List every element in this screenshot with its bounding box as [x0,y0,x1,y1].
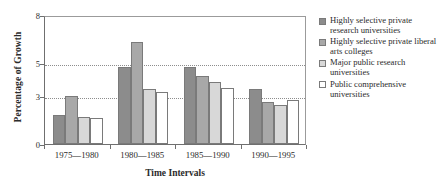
bar [90,118,103,144]
x-axis-tick-mark [44,145,45,149]
legend-swatch-icon [319,60,326,67]
x-axis-tick-mark [175,145,176,149]
bar-group [249,17,299,144]
x-axis-tick-mark [306,145,307,149]
legend-item: Major public research universities [319,57,439,77]
bar-group [184,17,234,144]
bar-group [118,17,168,144]
x-axis-tick-label: 1975—1980 [44,150,110,160]
y-axis-title: Percentage of Growth [13,12,23,142]
bar [274,105,287,145]
bar [287,100,300,144]
bar [53,115,66,144]
x-axis-tick-label: 1985—1990 [175,150,241,160]
bar [118,67,131,144]
legend-item-label: Public comprehensive universities [330,79,439,99]
legend-swatch-icon [319,81,326,88]
bar-series-container [45,17,305,144]
x-axis-tick-mark [241,145,242,149]
y-axis-tick-label: 8 [24,12,40,21]
y-axis-tick-label: 0 [24,141,40,150]
bar [209,82,222,144]
bar [78,117,91,144]
bar [196,76,209,144]
bar [184,67,197,144]
legend-item: Public comprehensive universities [319,79,439,99]
x-axis-tick-label: 1990—1995 [241,150,307,160]
chart-figure: Percentage of Growth 0358 1975—19801980—… [0,0,439,189]
bar-group [53,17,103,144]
x-axis-tick-label: 1980—1985 [110,150,176,160]
legend-item-label: Highly selective private research univer… [330,15,439,35]
legend: Highly selective private research univer… [319,15,439,100]
legend-item: Highly selective private research univer… [319,15,439,35]
bar [65,96,78,144]
x-axis-title: Time Intervals [44,168,306,178]
bar [131,42,144,144]
bar [156,92,169,144]
y-axis-tick-label: 5 [24,60,40,69]
legend-item-label: Highly selective private liberal arts co… [330,36,439,56]
legend-item-label: Major public research universities [330,57,439,77]
bar [221,88,234,144]
legend-swatch-icon [319,18,326,25]
plot-area [44,16,306,145]
bar [262,102,275,144]
bar [143,89,156,144]
x-axis-tick-mark [110,145,111,149]
legend-swatch-icon [319,39,326,46]
bar [249,89,262,144]
legend-item: Highly selective private liberal arts co… [319,36,439,56]
y-axis-tick-label: 3 [24,93,40,102]
